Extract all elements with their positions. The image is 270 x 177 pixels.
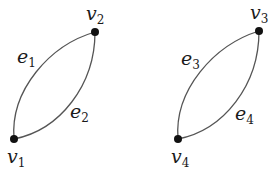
edge-label-e2: e2 (70, 100, 89, 125)
vertex-v4 (174, 135, 182, 143)
vertex-label-v4: v4 (171, 145, 190, 170)
edge-label-e4: e4 (235, 102, 254, 127)
component-2: v3 v4 e3 e4 (171, 1, 268, 170)
edge-label-e3: e3 (181, 47, 200, 72)
edge-label-e1: e1 (17, 45, 36, 70)
graph-diagram: v2 v1 e1 e2 v3 v4 e3 e4 (0, 0, 270, 177)
vertex-label-v2: v2 (86, 2, 104, 27)
vertex-v2 (91, 28, 99, 36)
vertex-v3 (255, 27, 263, 35)
vertex-v1 (10, 135, 18, 143)
vertex-label-v3: v3 (250, 1, 268, 26)
component-1: v2 v1 e1 e2 (7, 2, 104, 170)
vertex-label-v1: v1 (7, 145, 25, 170)
